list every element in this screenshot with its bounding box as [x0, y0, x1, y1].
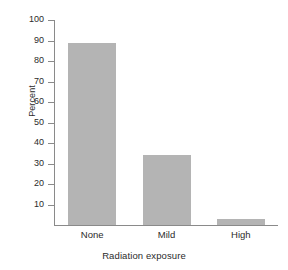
bar	[143, 155, 191, 225]
x-axis-tick-label: High	[204, 229, 278, 240]
y-axis-tick-label: 70	[18, 77, 44, 86]
x-axis-tick-labels: NoneMildHigh	[55, 229, 278, 245]
x-axis-title: Radiation exposure	[0, 250, 288, 261]
plot-area	[55, 20, 278, 225]
bar-chart: Percent 100908070605040302010 NoneMildHi…	[0, 0, 288, 270]
y-axis-tick-label: 20	[18, 179, 44, 188]
y-axis-tick-label: 90	[18, 36, 44, 45]
x-axis-line	[54, 225, 278, 226]
x-axis-tick-label: None	[55, 229, 129, 240]
bar	[217, 219, 265, 225]
y-axis-tick-label: 10	[18, 200, 44, 209]
y-axis-tick-label: 40	[18, 138, 44, 147]
y-axis-tick-label: 50	[18, 118, 44, 127]
y-axis-tick-label: 30	[18, 159, 44, 168]
x-axis-tick-label: Mild	[129, 229, 203, 240]
y-axis-tick-labels: 100908070605040302010	[18, 0, 44, 270]
bar	[68, 43, 116, 225]
y-axis-tick-label: 80	[18, 56, 44, 65]
y-axis-tick-label: 60	[18, 97, 44, 106]
y-axis-tick-label: 100	[18, 15, 44, 24]
